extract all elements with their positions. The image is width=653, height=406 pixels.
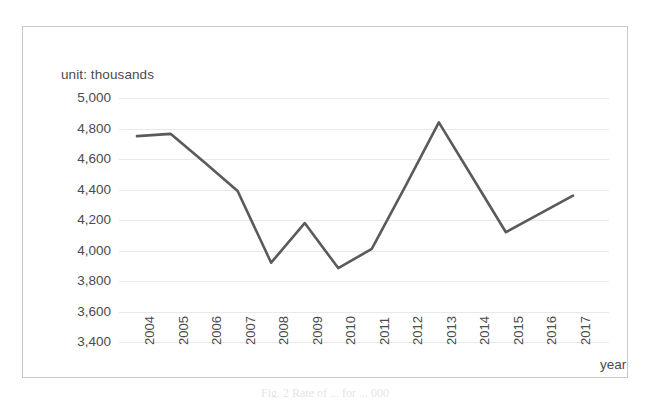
series-polyline (137, 122, 573, 268)
figure-root: unit: thousands 5,0004,8004,6004,4004,20… (0, 0, 653, 406)
y-axis-tick-label: 3,400 (49, 335, 111, 349)
chart-plot-frame: unit: thousands 5,0004,8004,6004,4004,20… (22, 26, 628, 378)
x-axis-tick-label: 2006 (197, 345, 211, 391)
x-axis-tick-label: 2016 (532, 345, 546, 391)
plot-area (119, 98, 609, 342)
x-axis-tick-label: 2015 (499, 345, 513, 391)
y-axis-tick-label: 4,800 (49, 122, 111, 136)
y-axis-tick-label: 4,600 (49, 152, 111, 166)
x-axis-tick-label: 2012 (398, 345, 412, 391)
y-axis-tick-labels: 5,0004,8004,6004,4004,2004,0003,8003,600… (49, 98, 111, 342)
y-axis-tick-label: 4,200 (49, 213, 111, 227)
x-axis-tick-label: 2013 (432, 345, 446, 391)
gridline (119, 342, 609, 343)
x-axis-title: year (600, 357, 626, 372)
y-axis-tick-label: 4,400 (49, 183, 111, 197)
x-axis-tick-label: 2010 (331, 345, 345, 391)
figure-caption: Fig. 2 Rate of ... for ... 000 (150, 386, 500, 398)
y-axis-tick-label: 5,000 (49, 91, 111, 105)
x-axis-tick-label: 2011 (365, 345, 379, 391)
x-axis-tick-label: 2008 (264, 345, 278, 391)
x-axis-tick-label: 2017 (566, 345, 580, 391)
x-axis-tick-label: 2005 (164, 345, 178, 391)
y-axis-unit-label: unit: thousands (61, 67, 154, 82)
line-series (119, 98, 609, 342)
y-axis-tick-label: 4,000 (49, 244, 111, 258)
x-axis-tick-label: 2004 (130, 345, 144, 391)
x-axis-tick-label: 2009 (298, 345, 312, 391)
y-axis-tick-label: 3,600 (49, 305, 111, 319)
x-axis-tick-label: 2014 (465, 345, 479, 391)
y-axis-tick-label: 3,800 (49, 274, 111, 288)
x-axis-tick-label: 2007 (231, 345, 245, 391)
